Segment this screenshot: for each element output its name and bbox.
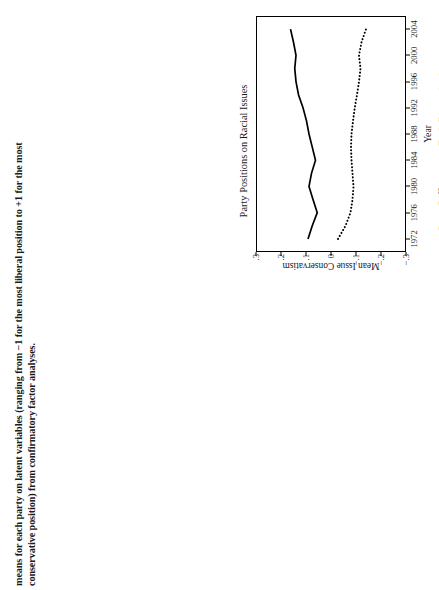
figure-caption: means for each party on latent variables… (0, 0, 42, 590)
y-axis-tick-label: −.3 (401, 254, 411, 278)
y-axis-tick-label: 0 (326, 254, 336, 278)
y-axis-tick-label: .1 (301, 254, 311, 278)
x-axis-tick-label: 1972 (409, 230, 419, 247)
x-axis-tick-label: 1984 (409, 152, 419, 169)
y-axis-tick-mark (256, 252, 257, 256)
chart-panel-racial: Party Positions on Racial Issues Mean Is… (238, 6, 434, 296)
y-axis-tick-mark (356, 252, 357, 256)
panel-title: Party Positions on Racial Issues (238, 6, 250, 296)
caption-line-2: conservative position) from confirmatory… (26, 343, 37, 586)
chart-panel-social-welfare: Party Positions on Social Welfare Issues… (238, 0, 434, 2)
x-axis-tick-label: 1988 (409, 125, 419, 142)
x-axis-tick-mark (406, 186, 410, 187)
y-axis-tick-mark (331, 252, 332, 256)
y-axis-tick-mark (281, 252, 282, 256)
x-axis-tick-label: 1996 (409, 73, 419, 90)
x-axis-tick-mark (406, 212, 410, 213)
y-axis-tick-label: .3 (251, 254, 261, 278)
caption-line-1: means for each party on latent variables… (13, 142, 24, 586)
series-layer (256, 16, 406, 252)
x-axis-tick-label: 2000 (409, 47, 419, 64)
x-axis-tick-label: 1992 (409, 99, 419, 116)
x-axis-tick-mark (406, 134, 410, 135)
x-axis-tick-label: 1976 (409, 204, 419, 221)
panel-title: Party Positions on Social Welfare Issues (238, 0, 250, 2)
data-series-dotted (338, 29, 366, 239)
x-axis-tick-label: 2004 (409, 21, 419, 38)
y-axis-tick-label: −.2 (376, 254, 386, 278)
y-axis-tick-label: −.1 (351, 254, 361, 278)
x-axis-tick-mark (406, 107, 410, 108)
data-series-solid (291, 29, 318, 239)
y-axis-tick-mark (381, 252, 382, 256)
x-axis-tick-mark (406, 55, 410, 56)
y-axis-tick-label: .2 (276, 254, 286, 278)
x-axis-tick-mark (406, 81, 410, 82)
plot-area: Mean Issue Conservatism Year .3.2.10−.1−… (256, 16, 406, 252)
y-axis-tick-mark (306, 252, 307, 256)
x-axis-tick-mark (406, 160, 410, 161)
x-axis-tick-label: 1980 (409, 178, 419, 195)
y-axis-tick-mark (406, 252, 407, 256)
x-axis-tick-mark (406, 29, 410, 30)
x-axis-tick-mark (406, 238, 410, 239)
x-axis-label: Year (422, 125, 433, 143)
